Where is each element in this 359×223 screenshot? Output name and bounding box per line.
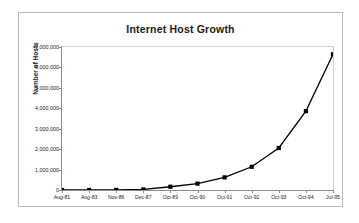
x-axis-tick-mark: [279, 190, 280, 193]
y-axis-tick-mark: [59, 170, 62, 171]
y-axis-tick-label: 1,000,000: [35, 167, 59, 173]
y-axis-tick-label: 5,000,000: [35, 85, 59, 91]
x-axis-tick-label: Aug-83: [81, 194, 97, 200]
data-point-marker: [331, 52, 333, 56]
x-axis-tick-mark: [62, 190, 63, 193]
y-axis-tick-label: 6,000,000: [35, 64, 59, 70]
y-axis-tick-label: 3,000,000: [35, 126, 59, 132]
x-axis-tick-label: Oct-92: [244, 194, 259, 200]
x-axis-tick-label: Jul-95: [326, 194, 340, 200]
data-point-marker: [223, 175, 227, 179]
data-point-marker: [277, 146, 281, 150]
x-axis-tick-mark: [143, 190, 144, 193]
data-point-marker: [168, 185, 172, 189]
x-axis-tick-label: Oct-90: [190, 194, 205, 200]
x-axis-tick-mark: [252, 190, 253, 193]
data-point-marker: [250, 165, 254, 169]
series-line: [62, 54, 333, 190]
chart-frame: Internet Host Growth Number of Hosts 01,…: [18, 12, 343, 207]
x-axis-tick-mark: [306, 190, 307, 193]
y-axis-tick-mark: [59, 108, 62, 109]
x-axis-tick-mark: [89, 190, 90, 193]
y-axis-tick-mark: [59, 149, 62, 150]
y-axis-tick-label: 4,000,000: [35, 105, 59, 111]
x-axis-tick-mark: [170, 190, 171, 193]
line-series: [62, 47, 333, 190]
y-axis-tick-mark: [59, 129, 62, 130]
x-axis-tick-mark: [225, 190, 226, 193]
y-axis-tick-label: 2,000,000: [35, 146, 59, 152]
x-axis-tick-label: Oct-91: [217, 194, 232, 200]
x-axis-tick-mark: [198, 190, 199, 193]
data-point-marker: [195, 182, 199, 186]
x-axis-tick-mark: [333, 190, 334, 193]
chart-title: Internet Host Growth: [19, 23, 342, 35]
x-axis-tick-label: Oct-94: [298, 194, 313, 200]
x-axis-tick-label: Nov-86: [108, 194, 124, 200]
x-axis-tick-mark: [116, 190, 117, 193]
x-axis-tick-label: Dec-87: [135, 194, 151, 200]
x-axis-tick-label: Aug-81: [54, 194, 70, 200]
y-axis-tick-label: 7,000,000: [35, 44, 59, 50]
x-axis-tick-label: Oct-89: [163, 194, 178, 200]
plot-area: 01,000,0002,000,0003,000,0004,000,0005,0…: [61, 46, 334, 191]
y-axis-tick-mark: [59, 88, 62, 89]
y-axis-tick-mark: [59, 47, 62, 48]
y-axis-tick-mark: [59, 67, 62, 68]
x-axis-tick-label: Oct-93: [271, 194, 286, 200]
data-point-marker: [304, 109, 308, 113]
